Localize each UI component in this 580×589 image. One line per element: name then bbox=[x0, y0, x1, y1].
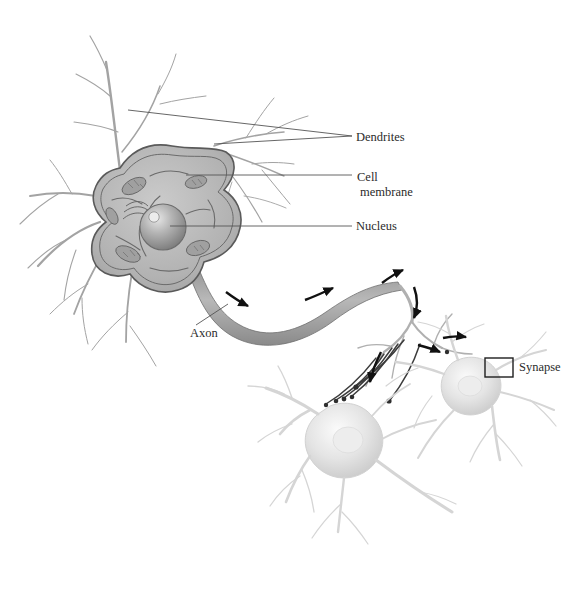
postsynaptic-neuron-right bbox=[386, 316, 556, 466]
nucleus-sphere bbox=[140, 204, 186, 250]
neuron-diagram-figure: Dendrites Cell membrane Nucleus Axon Syn… bbox=[0, 0, 580, 589]
arrow-2 bbox=[305, 288, 333, 300]
label-cell-membrane-line1: Cell bbox=[357, 170, 378, 185]
arrow-7 bbox=[443, 336, 466, 338]
neuron-illustration bbox=[0, 0, 580, 589]
arrow-3 bbox=[382, 270, 403, 283]
label-synapse: Synapse bbox=[519, 360, 561, 374]
signal-direction-arrows bbox=[226, 270, 466, 382]
leader-dendrites-upper bbox=[128, 110, 352, 136]
label-axon: Axon bbox=[190, 326, 218, 340]
cell-body-soma bbox=[92, 145, 241, 292]
label-nucleus: Nucleus bbox=[356, 219, 397, 233]
arrow-1 bbox=[226, 292, 248, 306]
nucleolus bbox=[149, 212, 159, 222]
label-cell-membrane-line2: membrane bbox=[360, 185, 413, 200]
label-dendrites: Dendrites bbox=[356, 130, 405, 144]
arrow-4 bbox=[414, 287, 417, 318]
axon-fiber bbox=[186, 262, 402, 345]
